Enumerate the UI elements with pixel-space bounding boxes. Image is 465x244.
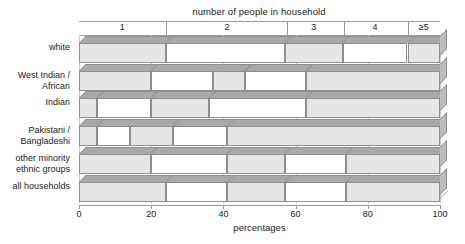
segment-front-face	[343, 43, 408, 63]
top-scale-divider-1	[166, 21, 167, 35]
bar-row: all households	[79, 182, 440, 202]
bar-row: Pakistani / Bangladeshi	[79, 126, 440, 146]
segment-side-face	[440, 57, 447, 84]
bar-segment	[209, 98, 306, 118]
row-label: West Indian / African	[0, 70, 70, 91]
segment-front-face	[79, 43, 166, 63]
segment-front-face	[151, 98, 209, 118]
segment-top-face	[79, 147, 158, 154]
segment-front-face	[151, 154, 227, 174]
segment-top-face	[227, 119, 447, 126]
segment-top-face	[213, 64, 252, 71]
bar-segment	[166, 182, 227, 202]
bar-segment	[79, 43, 166, 63]
segment-top-face	[227, 175, 292, 182]
segment-side-face	[440, 84, 447, 111]
segment-front-face	[79, 71, 151, 91]
bar-segment	[79, 126, 97, 146]
axis-tick-label: 100	[425, 209, 455, 219]
bar-segment	[227, 154, 285, 174]
legend-label-3: 3	[294, 22, 334, 32]
segment-top-face	[209, 91, 313, 98]
segment-top-face	[227, 147, 292, 154]
segment-top-face	[166, 36, 292, 43]
bar-segment	[227, 126, 440, 146]
bar-segment	[346, 154, 440, 174]
bar-segment	[408, 43, 440, 63]
segment-side-face	[440, 140, 447, 167]
bar-segment	[285, 154, 346, 174]
segment-front-face	[227, 154, 285, 174]
segment-front-face	[130, 126, 173, 146]
segment-front-face	[151, 71, 212, 91]
legend-label-1: 1	[102, 22, 142, 32]
segment-front-face	[285, 43, 343, 63]
bar-segment	[151, 154, 227, 174]
segment-front-face	[245, 71, 306, 91]
segment-front-face	[97, 126, 129, 146]
top-category-scale: 1234≥5	[79, 21, 440, 35]
axis-line	[79, 205, 440, 206]
bar-row: white	[79, 43, 440, 63]
bar-segment	[343, 43, 408, 63]
bar-row: Indian	[79, 98, 440, 118]
segment-front-face	[79, 154, 151, 174]
segment-top-face	[245, 64, 313, 71]
segment-top-face	[346, 175, 447, 182]
bar-segment	[79, 71, 151, 91]
segment-top-face	[97, 91, 158, 98]
segment-top-face	[151, 147, 234, 154]
segment-top-face	[151, 64, 219, 71]
segment-front-face	[346, 182, 440, 202]
segment-top-face	[173, 119, 234, 126]
plot-area: 1234≥5 whiteWest Indian / AfricanIndianP…	[79, 21, 440, 203]
row-label: white	[0, 42, 70, 53]
axis-tick-label: 40	[208, 209, 238, 219]
row-label: all households	[0, 181, 70, 192]
stacked-bar-chart: number of people in household 1234≥5 whi…	[0, 0, 465, 244]
bar-segment	[97, 126, 129, 146]
segment-top-face	[306, 91, 447, 98]
bar-segment	[166, 43, 285, 63]
bottom-value-axis: 020406080100	[79, 205, 440, 217]
bar-row: other minority ethnic groups	[79, 154, 440, 174]
bar-segment	[97, 98, 151, 118]
segment-front-face	[166, 182, 227, 202]
bar-segment	[306, 98, 440, 118]
segment-top-face	[285, 175, 353, 182]
segment-top-face	[130, 119, 180, 126]
axis-tick-label: 20	[136, 209, 166, 219]
segment-front-face	[306, 71, 440, 91]
row-label: Pakistani / Bangladeshi	[0, 125, 70, 146]
bar-segment	[79, 154, 151, 174]
segment-front-face	[79, 98, 97, 118]
segment-front-face	[209, 98, 306, 118]
segment-top-face	[285, 36, 350, 43]
segment-front-face	[285, 182, 346, 202]
bar-segment	[346, 182, 440, 202]
axis-tick-label: 0	[64, 209, 94, 219]
segment-front-face	[306, 98, 440, 118]
row-label: other minority ethnic groups	[0, 153, 70, 174]
segment-top-face	[285, 147, 353, 154]
segment-front-face	[79, 126, 97, 146]
bar-segment	[227, 182, 285, 202]
segment-side-face	[440, 29, 447, 56]
bar-row: West Indian / African	[79, 71, 440, 91]
bar-segment	[130, 126, 173, 146]
segment-top-face	[79, 36, 173, 43]
segment-front-face	[173, 126, 227, 146]
segment-top-face	[79, 64, 158, 71]
legend-label-2: 2	[207, 22, 247, 32]
segment-top-face	[79, 175, 173, 182]
bar-segment	[306, 71, 440, 91]
segment-top-face	[343, 36, 415, 43]
bar-segment	[285, 182, 346, 202]
bar-segment	[173, 126, 227, 146]
segment-top-face	[346, 147, 447, 154]
segment-top-face	[306, 64, 447, 71]
segment-side-face	[440, 112, 447, 139]
bar-segment	[245, 71, 306, 91]
top-scale-divider-3	[344, 21, 345, 35]
segment-front-face	[285, 154, 346, 174]
